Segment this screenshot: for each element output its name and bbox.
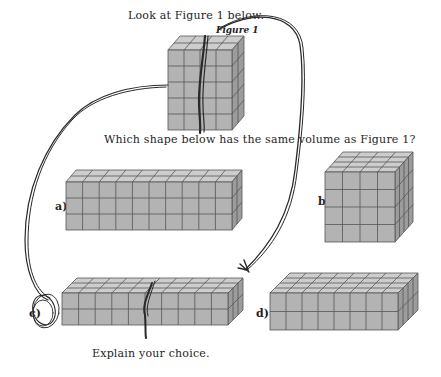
option-c-block[interactable]	[62, 278, 243, 325]
option-b-block[interactable]	[325, 152, 413, 242]
figure-1-block	[168, 36, 244, 130]
option-a-block[interactable]	[66, 170, 242, 230]
option-d-block[interactable]	[270, 273, 418, 330]
figure-layer	[0, 0, 441, 377]
